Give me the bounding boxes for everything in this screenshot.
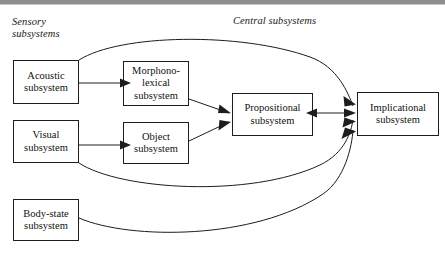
edge-object-to-prop: [189, 122, 229, 141]
node-visual-subsystem[interactable]: Visual subsystem: [13, 120, 79, 163]
edge-morpho-to-prop: [189, 99, 229, 113]
figure-canvas: Sensory subsystems Central subsystems Ac…: [0, 0, 445, 256]
node-object-subsystem[interactable]: Object subsystem: [123, 122, 189, 164]
node-morphonolexical-subsystem[interactable]: Morphono- lexical subsystem: [123, 61, 189, 106]
node-body-state-subsystem[interactable]: Body-state subsystem: [13, 199, 79, 241]
node-acoustic-subsystem[interactable]: Acoustic subsystem: [13, 60, 79, 104]
edge-bodystate-to-implic: [79, 130, 353, 232]
node-implicational-subsystem[interactable]: Implicational subsystem: [357, 92, 439, 136]
node-propositional-subsystem[interactable]: Propositional subsystem: [232, 93, 313, 136]
